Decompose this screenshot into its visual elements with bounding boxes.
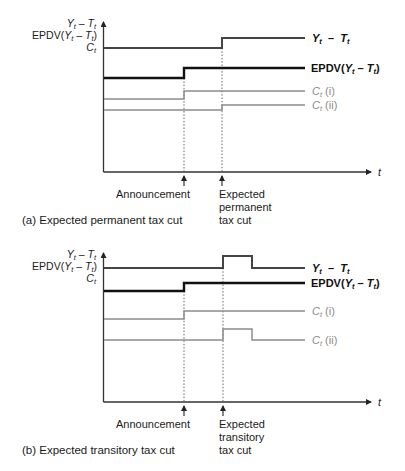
x-axis-label: t — [378, 396, 382, 408]
series-c2-line — [104, 329, 305, 340]
caption-panel-b: (b) Expected transitory tax cut — [22, 444, 176, 456]
svg-text:Ct: Ct — [86, 272, 97, 286]
svg-text:Ct (ii): Ct (ii) — [312, 99, 337, 113]
event-label-tax-cut: Expected permanent tax cut — [219, 188, 275, 226]
series-label-c1: Ct (i) — [312, 305, 335, 319]
series-label-yt: Yt – Tt — [312, 262, 350, 276]
event-label-tax-cut: Expected transitory tax cut — [219, 418, 268, 456]
svg-text:Ct: Ct — [86, 41, 97, 55]
series-c1-line — [104, 311, 305, 319]
svg-text:Ct (i): Ct (i) — [312, 305, 335, 319]
svg-text:Ct (ii): Ct (ii) — [312, 334, 337, 348]
series-label-c1: Ct (i) — [312, 85, 335, 99]
svg-text:EPDV(Yt – Tt): EPDV(Yt – Tt) — [311, 277, 380, 291]
series-label-epdv: EPDV(Yt – Tt) — [311, 277, 380, 291]
svg-text:Yt – Tt: Yt – Tt — [312, 32, 350, 46]
svg-text:Yt – Tt: Yt – Tt — [312, 262, 350, 276]
series-label-c2: Ct (ii) — [312, 334, 337, 348]
series-c1-line — [104, 91, 305, 99]
series-epdv-line — [104, 68, 305, 78]
event-label-announcement: Announcement — [116, 418, 190, 430]
svg-text:EPDV(Yt – Tt): EPDV(Yt – Tt) — [311, 62, 380, 76]
series-label-c2: Ct (ii) — [312, 99, 337, 113]
series-label-epdv: EPDV(Yt – Tt) — [311, 62, 380, 76]
series-yt-line — [104, 256, 305, 268]
series-c2-line — [104, 105, 305, 110]
series-label-yt: Yt – Tt — [312, 32, 350, 46]
panel-a: Yt – Tt EPDV(Yt – Tt) Ct t Yt – Tt — [22, 17, 382, 226]
caption-panel-a: (a) Expected permanent tax cut — [22, 214, 183, 226]
series-yt-line — [104, 38, 305, 48]
x-axis-label: t — [378, 166, 382, 178]
tax-cut-figure: Yt – Tt EPDV(Yt – Tt) Ct t Yt – Tt — [0, 0, 405, 471]
series-epdv-line — [104, 283, 305, 291]
event-label-announcement: Announcement — [116, 188, 190, 200]
svg-text:Ct (i): Ct (i) — [312, 85, 335, 99]
panel-b: Yt – Tt EPDV(Yt – Tt) Ct t Yt – Tt — [22, 248, 382, 456]
y-axis-label-c: Ct — [86, 41, 97, 55]
y-axis-label-c: Ct — [86, 272, 97, 286]
